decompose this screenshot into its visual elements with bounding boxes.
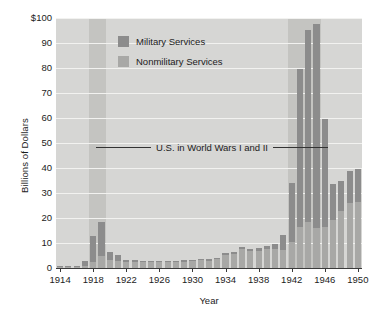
x-axis-tick-mark bbox=[93, 268, 94, 272]
bar-segment-military bbox=[115, 255, 121, 260]
bar bbox=[247, 249, 253, 268]
bar bbox=[98, 222, 104, 268]
bar-segment-military bbox=[313, 24, 319, 228]
bar-segment-nonmilitary bbox=[206, 261, 212, 269]
bar-segment-nonmilitary bbox=[115, 261, 121, 269]
x-axis-tick-label: 1918 bbox=[83, 274, 104, 285]
bar bbox=[214, 258, 220, 268]
bar bbox=[272, 244, 278, 268]
bar-segment-military bbox=[107, 252, 113, 260]
y-axis-tick-label: 90 bbox=[6, 38, 52, 48]
bar bbox=[123, 260, 129, 268]
plot-area: Military Services Nonmilitary Services U… bbox=[56, 18, 362, 268]
bar-segment-nonmilitary bbox=[231, 254, 237, 269]
bar bbox=[173, 261, 179, 269]
bar-segment-military bbox=[181, 260, 187, 262]
bar bbox=[347, 171, 353, 269]
x-axis-tick-mark bbox=[292, 268, 293, 272]
legend-item-military: Military Services bbox=[118, 36, 298, 47]
bar-segment-nonmilitary bbox=[355, 202, 361, 268]
bar bbox=[107, 252, 113, 268]
x-axis-title: Year bbox=[56, 295, 362, 306]
bar-segment-nonmilitary bbox=[247, 251, 253, 268]
x-axis-tick-label: 1946 bbox=[314, 274, 335, 285]
y-axis-tick-label: 40 bbox=[6, 163, 52, 173]
bar-segment-military bbox=[239, 247, 245, 249]
bar-segment-military bbox=[65, 266, 71, 267]
x-axis-tick-label: 1922 bbox=[116, 274, 137, 285]
bar-segment-military bbox=[280, 235, 286, 251]
bar bbox=[264, 246, 270, 269]
bar bbox=[338, 181, 344, 268]
bar bbox=[289, 183, 295, 269]
bar bbox=[181, 260, 187, 268]
y-axis-tick-label: 70 bbox=[6, 88, 52, 98]
x-axis-tick-label: 1938 bbox=[248, 274, 269, 285]
bar-segment-nonmilitary bbox=[272, 249, 278, 269]
bar-segment-military bbox=[140, 261, 146, 263]
bar-segment-nonmilitary bbox=[289, 242, 295, 268]
bar-segment-military bbox=[330, 184, 336, 220]
bar-segment-military bbox=[289, 183, 295, 243]
legend-swatch-military-icon bbox=[118, 36, 129, 47]
x-axis-tick-label: 1950 bbox=[347, 274, 368, 285]
y-axis-tick-label: 20 bbox=[6, 213, 52, 223]
chart-legend: Military Services Nonmilitary Services bbox=[118, 36, 298, 76]
bar bbox=[198, 259, 204, 269]
bar-segment-military bbox=[189, 260, 195, 262]
x-axis-tick-mark bbox=[226, 268, 227, 272]
war-annotation: U.S. in World Wars I and II bbox=[96, 142, 328, 153]
bar-segment-military bbox=[322, 119, 328, 227]
bar-segment-military bbox=[264, 246, 270, 249]
y-axis-tick-label: 30 bbox=[6, 188, 52, 198]
bar-segment-military bbox=[198, 259, 204, 261]
x-axis-tick-mark bbox=[60, 268, 61, 272]
bar bbox=[231, 252, 237, 268]
bar-segment-nonmilitary bbox=[222, 255, 228, 268]
bar bbox=[140, 261, 146, 268]
y-axis-tick-label: 80 bbox=[6, 63, 52, 73]
legend-label-nonmilitary: Nonmilitary Services bbox=[136, 56, 223, 67]
bar-segment-military bbox=[247, 249, 253, 251]
x-axis-tick-mark bbox=[259, 268, 260, 272]
bar-segment-nonmilitary bbox=[305, 222, 311, 268]
bar-segment-nonmilitary bbox=[239, 249, 245, 268]
bar bbox=[148, 261, 154, 268]
bar-segment-military bbox=[355, 169, 361, 202]
bar-segment-military bbox=[231, 252, 237, 254]
x-axis-tick-mark bbox=[358, 268, 359, 272]
bar bbox=[297, 69, 303, 268]
bar-segment-military bbox=[165, 261, 171, 263]
bar-segment-nonmilitary bbox=[189, 261, 195, 268]
bar-segment-military bbox=[74, 266, 80, 267]
chart-figure: Billions of Dollars $1009080706050403020… bbox=[0, 0, 372, 320]
bar-segment-nonmilitary bbox=[347, 203, 353, 268]
x-axis-tick-mark bbox=[192, 268, 193, 272]
bar-segment-military bbox=[206, 259, 212, 261]
bar-segment-military bbox=[132, 260, 138, 262]
bar bbox=[156, 261, 162, 269]
bar-segment-nonmilitary bbox=[280, 250, 286, 268]
x-axis-tick-label: 1942 bbox=[281, 274, 302, 285]
bar-segment-nonmilitary bbox=[98, 256, 104, 269]
bar-segment-military bbox=[173, 261, 179, 263]
bar-segment-nonmilitary bbox=[198, 260, 204, 268]
bar-segment-nonmilitary bbox=[107, 260, 113, 268]
bar bbox=[280, 235, 286, 269]
bar-segment-military bbox=[90, 236, 96, 263]
x-axis-tick-label: 1934 bbox=[215, 274, 236, 285]
bar-segment-nonmilitary bbox=[264, 249, 270, 269]
bar bbox=[132, 260, 138, 268]
bar-segment-nonmilitary bbox=[256, 251, 262, 268]
bar bbox=[82, 261, 88, 268]
bar bbox=[189, 260, 195, 269]
bar-segment-military bbox=[98, 222, 104, 256]
x-axis-tick-mark bbox=[325, 268, 326, 272]
y-axis-tick-label: 50 bbox=[6, 138, 52, 148]
bar bbox=[165, 261, 171, 268]
bar-segment-nonmilitary bbox=[214, 259, 220, 268]
x-axis-tick-label: 1926 bbox=[149, 274, 170, 285]
bar bbox=[330, 184, 336, 268]
bar bbox=[256, 248, 262, 268]
y-axis-tick-label: 0 bbox=[6, 263, 52, 273]
